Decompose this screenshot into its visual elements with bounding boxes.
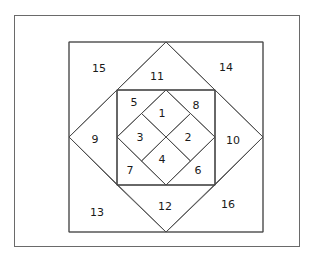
label-11: 11 [150, 70, 164, 83]
quilt-block-diagram: 1 2 3 4 5 6 7 8 9 10 11 12 13 14 15 16 [0, 0, 332, 271]
label-14: 14 [219, 61, 233, 74]
label-4: 4 [159, 153, 166, 166]
piece-11 [117, 42, 215, 90]
label-8: 8 [193, 99, 200, 112]
label-5: 5 [131, 96, 138, 109]
label-9: 9 [92, 133, 99, 146]
label-2: 2 [185, 131, 192, 144]
label-12: 12 [158, 200, 172, 213]
label-7: 7 [127, 164, 134, 177]
piece-1 [142, 90, 191, 137]
label-1: 1 [159, 107, 166, 120]
label-6: 6 [195, 164, 202, 177]
label-16: 16 [221, 198, 235, 211]
label-15: 15 [92, 62, 106, 75]
label-13: 13 [90, 206, 104, 219]
label-10: 10 [226, 134, 240, 147]
piece-4 [142, 137, 191, 185]
label-3: 3 [137, 131, 144, 144]
